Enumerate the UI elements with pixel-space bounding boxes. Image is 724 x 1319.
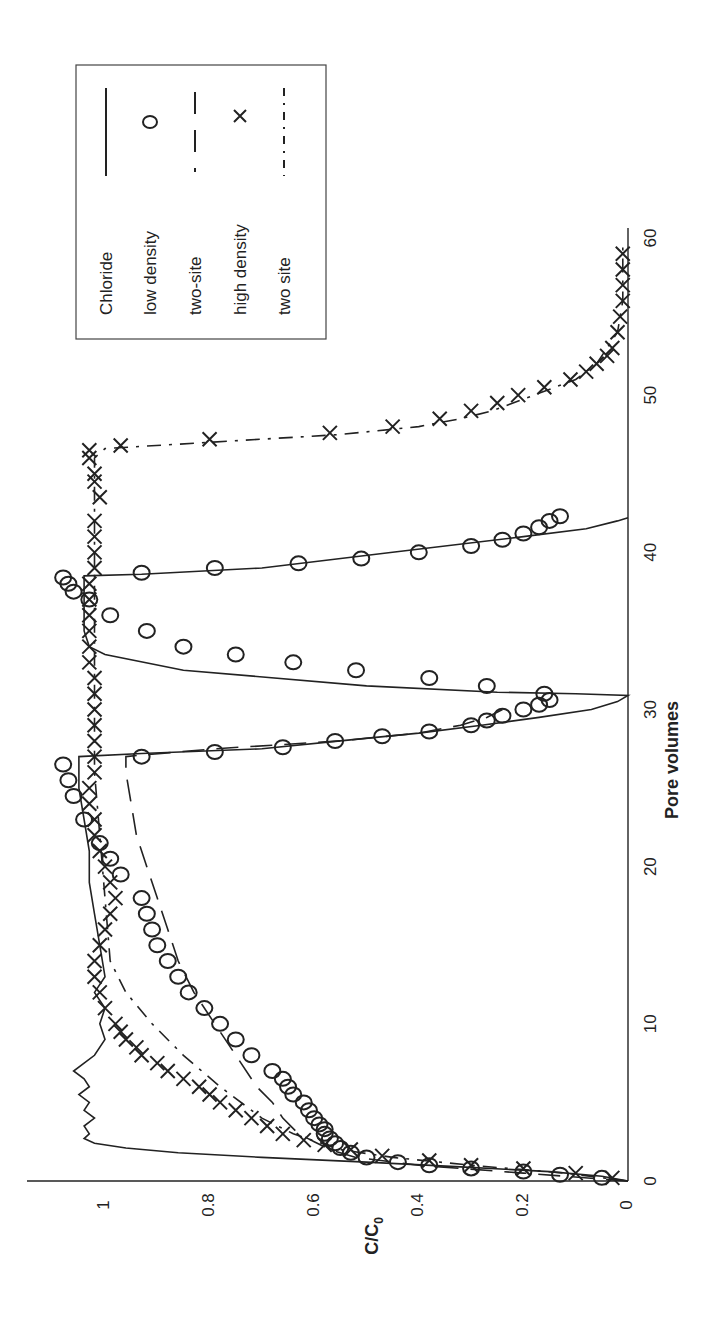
x-marker [579, 365, 593, 379]
circle-marker [134, 891, 150, 905]
circle-marker [134, 566, 150, 580]
x-marker [108, 1017, 122, 1031]
circle-marker [348, 663, 364, 677]
x-marker [114, 438, 128, 452]
series-two-site [95, 246, 629, 1181]
x-marker [82, 797, 96, 811]
x-tick-label: 40 [641, 543, 660, 562]
series-two-site [126, 710, 628, 1182]
circle-marker [160, 954, 176, 968]
x-marker [192, 1080, 206, 1094]
legend-label: low density [141, 230, 160, 315]
x-tick-label: 0 [641, 1176, 660, 1185]
x-marker [82, 443, 96, 457]
legend-label: high density [231, 224, 250, 315]
circle-marker [212, 1017, 228, 1031]
x-marker [88, 970, 102, 984]
x-tick-label: 10 [641, 1014, 660, 1033]
y-tick-label: 0.2 [513, 1193, 532, 1217]
x-marker [613, 310, 627, 324]
circle-marker [228, 1033, 244, 1047]
x-marker [276, 1127, 290, 1141]
circle-marker [515, 703, 531, 717]
x-marker [323, 426, 337, 440]
series-chloride [74, 518, 628, 1181]
x-marker [119, 1033, 133, 1047]
x-marker [203, 1088, 217, 1102]
x-marker [114, 1025, 128, 1039]
x-axis-tick-labels: 0102030405060 [641, 229, 660, 1186]
circle-marker [170, 970, 186, 984]
x-marker [176, 1072, 190, 1086]
circle-marker [264, 1064, 280, 1078]
circle-marker [421, 671, 437, 685]
x-marker [88, 765, 102, 779]
circle-marker [139, 907, 155, 921]
circle-marker [92, 836, 108, 850]
x-marker [103, 907, 117, 921]
circle-marker [353, 552, 369, 566]
y-tick-label: 0 [617, 1200, 636, 1209]
circle-marker [102, 608, 118, 622]
circle-marker [207, 561, 223, 575]
y-tick-label: 1 [94, 1200, 113, 1209]
x-marker [213, 1095, 227, 1109]
x-marker [464, 404, 478, 418]
x-marker [511, 388, 525, 402]
x-marker [386, 420, 400, 434]
x-marker [103, 875, 117, 889]
y-tick-label: 0.6 [304, 1193, 323, 1217]
x-marker [464, 1158, 478, 1172]
circle-marker [60, 773, 76, 787]
x-tick-label: 20 [641, 857, 660, 876]
y-axis-title-subscript: 0 [372, 1217, 386, 1224]
circle-marker [479, 679, 495, 693]
legend-label: two-site [186, 256, 205, 315]
x-marker [605, 341, 619, 355]
legend: Chloridelow densitytwo-sitehigh densityt… [76, 65, 326, 339]
circle-marker [113, 868, 129, 882]
x-marker [129, 1040, 143, 1054]
circle-marker [228, 647, 244, 661]
breakthrough-chart: 0102030405060 00.20.40.60.81 Pore volume… [0, 0, 724, 1319]
circle-marker [66, 789, 82, 803]
x-marker [93, 844, 107, 858]
x-tick-label: 30 [641, 700, 660, 719]
circle-marker [149, 938, 165, 952]
series-low-density [55, 509, 610, 1185]
x-marker [244, 1111, 258, 1125]
circle-marker [139, 624, 155, 638]
x-marker [203, 432, 217, 446]
circle-marker [55, 758, 71, 772]
x-marker [537, 380, 551, 394]
x-marker [161, 1064, 175, 1078]
legend-label: Chloride [97, 252, 116, 315]
circle-marker [175, 640, 191, 654]
plot-area [55, 246, 630, 1185]
circle-marker [144, 923, 160, 937]
x-marker [88, 954, 102, 968]
circle-marker [411, 545, 427, 559]
x-marker [98, 923, 112, 937]
y-tick-label: 0.8 [199, 1193, 218, 1217]
x-tick-label: 50 [641, 386, 660, 405]
circle-marker [207, 745, 223, 759]
circle-marker [243, 1048, 259, 1062]
y-axis-tick-labels: 00.20.40.60.81 [94, 1193, 636, 1217]
circle-marker [515, 526, 531, 540]
x-marker [98, 1001, 112, 1015]
x-marker [344, 1143, 358, 1157]
x-tick-label: 60 [641, 229, 660, 248]
circle-marker [515, 1165, 531, 1179]
circle-marker [134, 750, 150, 764]
y-axis-title-main: C/C [362, 1224, 382, 1255]
circle-marker [494, 709, 510, 723]
x-marker [490, 396, 504, 410]
x-marker [88, 671, 102, 685]
x-marker [82, 781, 96, 795]
x-axis-title: Pore volumes [662, 701, 682, 819]
circle-marker [463, 539, 479, 553]
x-marker [229, 1103, 243, 1117]
x-marker [108, 891, 122, 905]
circle-marker [102, 852, 118, 866]
